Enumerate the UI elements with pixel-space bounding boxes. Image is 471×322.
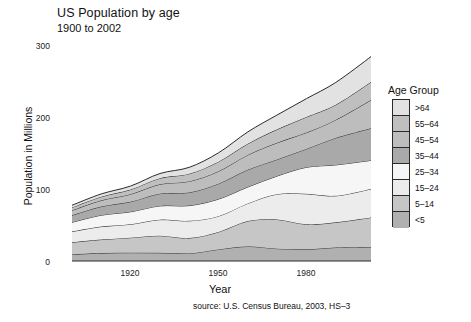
legend-label[interactable]: 5–14 [415,199,434,209]
source-caption: source: U.S. Census Bureau, 2003, HS–3 [193,301,350,311]
legend-label[interactable]: 35–44 [415,151,439,161]
area-band [72,160,371,231]
legend-swatch[interactable] [393,180,409,196]
area-band [72,100,371,215]
legend-swatch[interactable] [393,148,409,164]
legend-swatch[interactable] [393,212,409,228]
legend-swatch[interactable] [393,116,409,132]
legend-label[interactable]: 45–54 [415,135,439,145]
chart-title: US Population by age [57,6,180,20]
x-axis-label: Year [160,283,280,295]
legend-swatch[interactable] [393,100,409,116]
area-boundary-line [72,246,371,254]
area-band [72,218,371,255]
area-band [72,57,371,208]
area-boundary-line [72,218,371,243]
area-boundary-line [72,57,371,206]
area-series-group [72,57,371,261]
area-boundary-line [72,189,371,232]
legend-label[interactable]: <5 [415,215,425,225]
x-tick-1920: 1920 [110,268,150,278]
area-band [72,128,371,222]
x-tick-1950: 1950 [198,268,238,278]
legend-label[interactable]: 15–24 [415,183,439,193]
y-axis-label: Population in Millions [22,86,34,226]
legend-title: Age Group [388,84,439,96]
legend-label[interactable]: 25–34 [415,167,439,177]
y-tick-200: 200 [20,113,50,123]
y-tick-300: 300 [20,41,50,51]
area-band [72,82,371,210]
legend-swatch[interactable] [393,132,409,148]
chart-figure: US Population by age 1900 to 2002 Popula… [0,0,471,322]
area-boundary-line [72,128,371,215]
legend-swatch-stack [392,99,410,227]
area-band [72,246,371,261]
y-tick-100: 100 [20,185,50,195]
legend-swatch[interactable] [393,196,409,212]
area-boundary-line [72,160,371,222]
area-boundary-line [72,100,371,210]
legend-label[interactable]: 55–64 [415,119,439,129]
legend-label[interactable]: >64 [415,103,429,113]
legend-swatch[interactable] [393,164,409,180]
area-boundary-line [72,82,371,207]
chart-subtitle: 1900 to 2002 [57,22,121,34]
area-band [72,189,371,242]
y-tick-0: 0 [20,257,50,267]
x-tick-1980: 1980 [286,268,326,278]
